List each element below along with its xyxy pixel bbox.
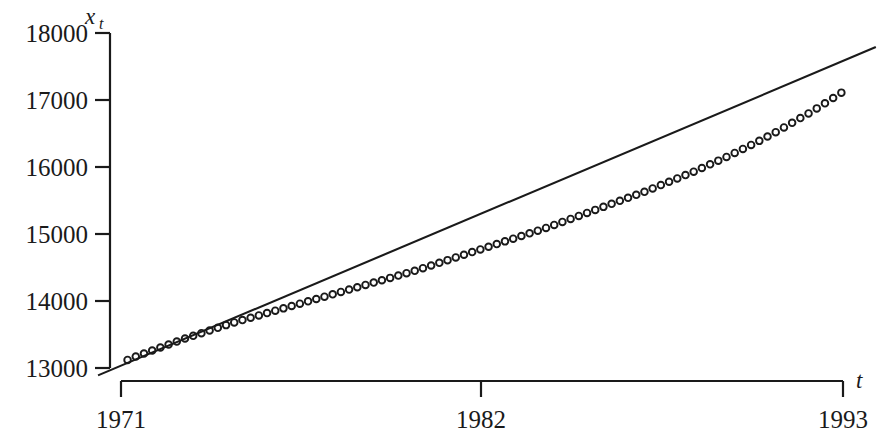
- data-point-marker: [756, 138, 763, 145]
- data-point-marker: [715, 157, 722, 164]
- data-point-marker: [264, 310, 271, 317]
- data-point-marker: [600, 204, 607, 211]
- data-point-marker: [838, 89, 845, 96]
- data-point-marker: [723, 154, 730, 161]
- data-point-marker: [740, 146, 747, 153]
- data-point-marker: [764, 133, 771, 140]
- data-points-layer: [124, 89, 844, 363]
- data-point-marker: [641, 188, 648, 195]
- data-point-marker: [231, 319, 238, 326]
- chart-figure: x t 18000 17000 16000 15000 14000 13000: [0, 0, 877, 434]
- data-point-marker: [551, 222, 558, 229]
- data-point-marker: [256, 312, 263, 319]
- data-point-marker: [690, 168, 697, 175]
- data-point-marker: [321, 293, 328, 300]
- data-point-marker: [518, 233, 525, 240]
- x-tick-label-1971: 1971: [96, 406, 146, 433]
- data-point-marker: [403, 270, 410, 277]
- data-point-marker: [338, 289, 345, 296]
- data-point-marker: [428, 262, 435, 269]
- y-tick-label-17000: 17000: [26, 87, 89, 114]
- data-point-marker: [354, 284, 361, 291]
- data-point-marker: [436, 260, 443, 267]
- y-tick-label-15000: 15000: [26, 221, 89, 248]
- data-point-marker: [567, 216, 574, 223]
- data-point-marker: [543, 225, 550, 232]
- x-axis: [121, 381, 843, 397]
- data-point-marker: [707, 161, 714, 168]
- data-point-marker: [305, 298, 312, 305]
- data-point-marker: [633, 192, 640, 199]
- data-point-marker: [387, 275, 394, 282]
- data-point-marker: [493, 241, 500, 248]
- y-tick-label-16000: 16000: [26, 154, 89, 181]
- data-point-marker: [379, 277, 386, 284]
- x-axis-title: t: [856, 368, 863, 393]
- y-tick-label-14000: 14000: [26, 288, 89, 315]
- data-point-marker: [781, 124, 788, 131]
- data-point-marker: [223, 322, 230, 329]
- data-point-marker: [411, 268, 418, 275]
- data-point-marker: [617, 198, 624, 205]
- y-tick-label-18000: 18000: [26, 20, 89, 47]
- data-point-marker: [813, 105, 820, 112]
- data-point-marker: [559, 219, 566, 226]
- data-point-marker: [789, 119, 796, 126]
- x-tick-label-1993: 1993: [818, 406, 868, 433]
- data-point-marker: [485, 243, 492, 250]
- data-point-marker: [797, 115, 804, 122]
- data-point-marker: [280, 305, 287, 312]
- data-point-marker: [239, 317, 246, 324]
- data-point-marker: [313, 296, 320, 303]
- y-axis-tick-labels: 18000 17000 16000 15000 14000 13000: [26, 20, 89, 382]
- data-point-marker: [649, 185, 656, 192]
- data-point-marker: [699, 165, 706, 172]
- data-point-marker: [461, 251, 468, 258]
- data-point-marker: [658, 182, 665, 189]
- scatter-chart-svg: x t 18000 17000 16000 15000 14000 13000: [0, 0, 877, 434]
- data-point-marker: [830, 95, 837, 102]
- data-point-marker: [748, 142, 755, 149]
- data-point-marker: [329, 291, 336, 298]
- data-point-marker: [805, 110, 812, 117]
- data-point-marker: [346, 286, 353, 293]
- data-point-marker: [362, 282, 369, 289]
- data-point-marker: [526, 230, 533, 237]
- data-point-marker: [534, 227, 541, 234]
- data-point-marker: [666, 178, 673, 185]
- data-point-marker: [452, 254, 459, 261]
- data-point-marker: [584, 210, 591, 217]
- data-point-marker: [272, 307, 279, 314]
- data-point-marker: [592, 207, 599, 214]
- data-point-marker: [370, 279, 377, 286]
- x-axis-tick-labels: 1971 1982 1993: [96, 406, 868, 433]
- data-point-marker: [576, 213, 583, 220]
- data-point-marker: [477, 246, 484, 253]
- data-point-marker: [502, 238, 509, 245]
- data-point-marker: [395, 272, 402, 279]
- y-axis-title-subscript: t: [99, 15, 104, 32]
- data-point-marker: [510, 235, 517, 242]
- x-tick-label-1982: 1982: [456, 406, 506, 433]
- data-point-marker: [420, 265, 427, 272]
- data-point-marker: [288, 303, 295, 310]
- data-point-marker: [608, 201, 615, 208]
- data-point-marker: [247, 314, 254, 321]
- y-tick-label-13000: 13000: [26, 355, 89, 382]
- y-axis: [95, 33, 110, 368]
- data-point-marker: [772, 129, 779, 136]
- data-point-marker: [731, 150, 738, 157]
- data-point-marker: [674, 175, 681, 182]
- data-point-marker: [297, 300, 304, 307]
- data-point-marker: [469, 249, 476, 256]
- data-point-marker: [682, 172, 689, 179]
- data-point-marker: [444, 257, 451, 264]
- data-point-marker: [625, 195, 632, 202]
- data-point-marker: [822, 100, 829, 107]
